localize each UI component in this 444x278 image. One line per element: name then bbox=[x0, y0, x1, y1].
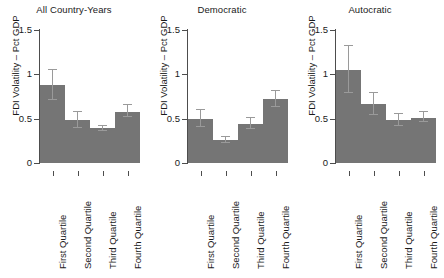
y-axis-tick bbox=[182, 74, 187, 75]
y-axis-tick-label: 1.5 bbox=[148, 24, 180, 35]
y-axis-tick-label: 0 bbox=[296, 157, 328, 168]
x-axis-tick-label: Third Quartile bbox=[255, 211, 266, 269]
error-bar bbox=[348, 46, 349, 93]
error-cap-lower bbox=[73, 127, 82, 128]
y-axis-label: FDI Volatility – Pct GDP bbox=[298, 22, 312, 167]
bar bbox=[115, 112, 140, 163]
x-axis-tick-label: Third Quartile bbox=[107, 211, 118, 269]
y-axis-tick-label: 1.5 bbox=[0, 24, 32, 35]
error-bar bbox=[275, 91, 276, 107]
y-axis-tick-label: 1 bbox=[148, 68, 180, 79]
error-cap-upper bbox=[419, 111, 428, 112]
y-axis-tick bbox=[330, 30, 335, 31]
x-axis-tick bbox=[399, 171, 400, 176]
x-axis-tick bbox=[78, 171, 79, 176]
error-bar bbox=[200, 110, 201, 127]
bar bbox=[386, 120, 411, 163]
x-axis-tick bbox=[128, 171, 129, 176]
x-axis-tick-label: Second Quartile bbox=[82, 201, 93, 269]
error-cap-lower bbox=[48, 99, 57, 100]
x-axis-tick-label: First Quartile bbox=[205, 215, 216, 269]
x-axis-tick bbox=[201, 171, 202, 176]
y-axis-tick bbox=[182, 119, 187, 120]
bar bbox=[411, 118, 436, 163]
x-axis-tick bbox=[251, 171, 252, 176]
y-axis-tick bbox=[34, 30, 39, 31]
bar bbox=[213, 140, 238, 163]
x-axis-tick-label: Second Quartile bbox=[378, 201, 389, 269]
x-axis-tick bbox=[374, 171, 375, 176]
error-bar bbox=[52, 70, 53, 100]
y-axis-tick bbox=[330, 74, 335, 75]
x-axis-tick-label: Fourth Quartile bbox=[428, 206, 439, 269]
error-cap-upper bbox=[73, 111, 82, 112]
x-axis-tick bbox=[103, 171, 104, 176]
error-cap-upper bbox=[221, 136, 230, 137]
y-axis-tick bbox=[34, 163, 39, 164]
bar bbox=[238, 124, 263, 163]
plot-area bbox=[188, 30, 288, 163]
y-axis-tick bbox=[34, 74, 39, 75]
error-cap-lower bbox=[221, 142, 230, 143]
y-axis-tick-label: 0 bbox=[148, 157, 180, 168]
panel-title: Democratic bbox=[148, 4, 296, 15]
y-axis-label: FDI Volatility – Pct GDP bbox=[2, 22, 16, 167]
error-cap-upper bbox=[246, 117, 255, 118]
error-cap-lower bbox=[98, 130, 107, 131]
y-axis-tick-label: 1 bbox=[0, 68, 32, 79]
error-cap-lower bbox=[369, 114, 378, 115]
error-cap-lower bbox=[419, 121, 428, 122]
error-cap-lower bbox=[246, 128, 255, 129]
y-axis-tick bbox=[330, 119, 335, 120]
y-axis-tick bbox=[182, 163, 187, 164]
plot-area bbox=[40, 30, 140, 163]
y-axis-tick-label: 0 bbox=[0, 157, 32, 168]
bar bbox=[90, 128, 115, 163]
panel-title: Autocratic bbox=[296, 4, 444, 15]
x-axis-tick-label: Fourth Quartile bbox=[280, 206, 291, 269]
error-cap-upper bbox=[196, 109, 205, 110]
y-axis-tick bbox=[34, 119, 39, 120]
error-cap-lower bbox=[344, 92, 353, 93]
error-bar bbox=[373, 93, 374, 115]
x-axis-tick bbox=[226, 171, 227, 176]
plot-area bbox=[336, 30, 436, 163]
y-axis-tick-label: 0.5 bbox=[148, 113, 180, 124]
x-axis-tick bbox=[53, 171, 54, 176]
error-cap-lower bbox=[394, 125, 403, 126]
error-cap-upper bbox=[98, 125, 107, 126]
panel-1: All Country-YearsFDI Volatility – Pct GD… bbox=[0, 0, 148, 278]
error-cap-lower bbox=[123, 116, 132, 117]
y-axis-tick bbox=[330, 163, 335, 164]
error-cap-upper bbox=[394, 113, 403, 114]
panel-2: DemocraticFDI Volatility – Pct GDP1.510.… bbox=[148, 0, 296, 278]
error-cap-upper bbox=[344, 45, 353, 46]
error-bar bbox=[77, 112, 78, 127]
error-cap-upper bbox=[123, 104, 132, 105]
x-axis-tick-label: Second Quartile bbox=[230, 201, 241, 269]
error-cap-upper bbox=[369, 92, 378, 93]
x-axis-tick-label: First Quartile bbox=[353, 215, 364, 269]
x-axis-tick-label: First Quartile bbox=[57, 215, 68, 269]
error-cap-lower bbox=[271, 106, 280, 107]
x-axis-tick bbox=[276, 171, 277, 176]
bar bbox=[263, 99, 288, 163]
x-axis-tick bbox=[424, 171, 425, 176]
error-cap-lower bbox=[196, 126, 205, 127]
x-axis-tick-label: Fourth Quartile bbox=[132, 206, 143, 269]
x-axis-tick-label: Third Quartile bbox=[403, 211, 414, 269]
figure-canvas: All Country-YearsFDI Volatility – Pct GD… bbox=[0, 0, 444, 278]
error-cap-upper bbox=[271, 90, 280, 91]
panel-title: All Country-Years bbox=[0, 4, 148, 15]
y-axis-tick-label: 1 bbox=[296, 68, 328, 79]
y-axis-label: FDI Volatility – Pct GDP bbox=[150, 22, 164, 167]
y-axis-tick-label: 1.5 bbox=[296, 24, 328, 35]
y-axis-tick bbox=[182, 30, 187, 31]
y-axis-tick-label: 0.5 bbox=[0, 113, 32, 124]
x-axis-tick bbox=[349, 171, 350, 176]
panel-3: AutocraticFDI Volatility – Pct GDP1.510.… bbox=[296, 0, 444, 278]
error-cap-upper bbox=[48, 69, 57, 70]
y-axis-tick-label: 0.5 bbox=[296, 113, 328, 124]
